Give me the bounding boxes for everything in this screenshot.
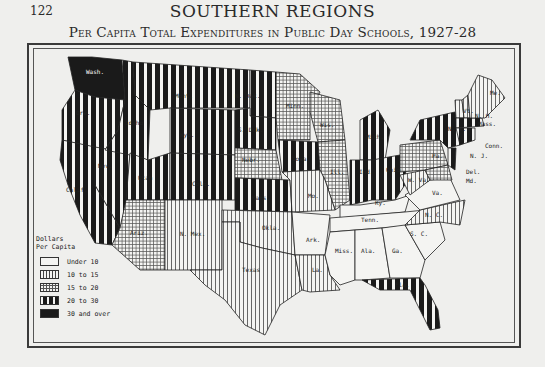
label-sdak: S. Dak.: [238, 126, 263, 133]
label-texas: Texas: [242, 266, 260, 273]
label-ark: Ark.: [306, 236, 320, 243]
legend: Dollars Per Capita Under 10 10 to 15 15 …: [40, 235, 110, 320]
label-kans: Kans.: [252, 194, 270, 201]
label-idaho: Idaho: [125, 119, 143, 126]
label-ill: Ill.: [330, 168, 344, 175]
label-nebr: Nebr.: [242, 156, 260, 163]
label-va: Va.: [432, 189, 443, 196]
label-colo: Colo.: [192, 180, 210, 187]
label-ind: Ind.: [359, 168, 373, 175]
label-mich: Mich.: [366, 133, 384, 140]
swatch-solid-black-icon: [40, 309, 59, 318]
label-calif: Calif.: [66, 186, 88, 193]
label-vt: Vt.: [463, 107, 474, 114]
label-nev: Nev.: [98, 162, 112, 169]
state-nebr: [235, 148, 282, 180]
label-ga: Ga.: [392, 247, 403, 254]
label-nc: N. C.: [425, 211, 443, 218]
legend-item-20-to-30: 20 to 30: [40, 294, 110, 307]
label-ndak: N. Dak.: [235, 92, 260, 99]
label-nj: N. J.: [470, 152, 488, 159]
swatch-bold-vertical-icon: [40, 296, 59, 305]
label-la: La.: [312, 266, 323, 273]
label-miss: Miss.: [335, 247, 353, 254]
label-pa: Pa.: [432, 152, 443, 159]
label-mo: Mo.: [308, 192, 319, 199]
label-me: Me.: [490, 89, 501, 96]
label-okla: Okla.: [262, 224, 280, 231]
swatch-thin-vertical-icon: [40, 270, 59, 279]
label-wash: Wash.: [86, 68, 104, 75]
label-del: Del.: [466, 168, 480, 175]
label-fla: Fla.: [395, 281, 409, 288]
label-wis: Wis.: [320, 121, 334, 128]
swatch-crosshatch-icon: [40, 283, 59, 292]
label-ny: N. Y.: [448, 125, 466, 132]
label-nh: N. H.: [475, 112, 493, 119]
legend-item-30-and-over: 30 and over: [40, 307, 110, 320]
label-ala: Ala.: [361, 247, 375, 254]
label-mass: Mass.: [478, 120, 496, 127]
state-ark: [292, 212, 330, 255]
label-iowa: Iowa: [292, 155, 307, 162]
label-wyo: Wyo.: [180, 131, 194, 139]
swatch-blank-icon: [40, 257, 59, 266]
label-ariz: Ariz.: [130, 229, 148, 236]
label-ohio: Ohio: [386, 166, 401, 173]
legend-item-10-to-15: 10 to 15: [40, 268, 110, 281]
state-ind: [350, 160, 372, 205]
state-nj: [448, 148, 456, 170]
label-minn: Minn.: [286, 102, 304, 109]
label-md: Md.: [466, 177, 477, 184]
legend-item-15-to-20: 15 to 20: [40, 281, 110, 294]
label-nmex: N. Mex.: [180, 230, 205, 237]
legend-item-under-10: Under 10: [40, 255, 110, 268]
label-sc: S. C.: [410, 230, 428, 237]
label-utah: Utah: [138, 174, 153, 181]
label-conn: Conn.: [485, 142, 503, 149]
label-mont: Mont.: [175, 92, 193, 99]
state-colo: [170, 153, 235, 200]
label-ore: Ore.: [76, 109, 90, 116]
state-wis: [310, 92, 345, 142]
label-wva: W. Va.: [408, 176, 430, 183]
legend-title: Dollars Per Capita: [36, 235, 110, 251]
label-tenn: Tenn.: [361, 216, 379, 223]
label-ky: Ky.: [375, 199, 386, 207]
state-mont: [133, 62, 250, 110]
